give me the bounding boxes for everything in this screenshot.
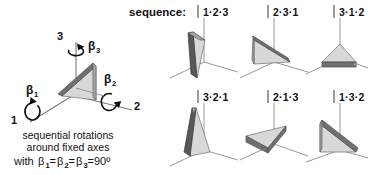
beta-2-subscript: 2	[112, 79, 116, 88]
cell-123-label: 1·2·3	[203, 6, 229, 18]
beta-3-subscript: 3	[96, 46, 100, 55]
figure-canvas: 3 1 2 β 3 β	[0, 0, 368, 175]
beta-2-symbol: β	[104, 72, 111, 86]
cell-312-wedge-front	[322, 62, 356, 67]
cell-213-label: 2·1·3	[273, 91, 299, 103]
caption-angle-value: =90º	[88, 155, 111, 167]
axis-3-label: 3	[57, 30, 63, 42]
cell-312-label: 3·1·2	[339, 6, 365, 18]
beta-3-symbol: β	[88, 39, 95, 53]
caption-line-2: around fixed axes	[27, 141, 110, 153]
cell-132-label: 1·3·2	[339, 91, 365, 103]
rotation-sequence-figure: 3 1 2 β 3 β	[0, 0, 368, 175]
caption-line-1: sequential rotations	[22, 129, 113, 141]
beta-1-subscript: 1	[34, 90, 38, 99]
cell-231-label: 2·3·1	[273, 6, 299, 18]
axis-2-label: 2	[134, 100, 140, 112]
beta-1-symbol: β	[26, 83, 33, 97]
caption-beta-2: β	[57, 155, 63, 167]
main-triangle-side	[93, 63, 96, 100]
sequence-heading: sequence:	[129, 6, 186, 18]
caption-equals-1: =	[50, 155, 56, 167]
axis-1-label: 1	[11, 114, 17, 126]
caption-equals-2: =	[69, 155, 75, 167]
cell-321-label: 3·2·1	[203, 91, 229, 103]
cell-132-wedge-side	[320, 120, 322, 152]
caption-with-word: with	[13, 155, 34, 167]
caption-beta-1: β	[38, 155, 44, 167]
caption-beta-3: β	[76, 155, 82, 167]
